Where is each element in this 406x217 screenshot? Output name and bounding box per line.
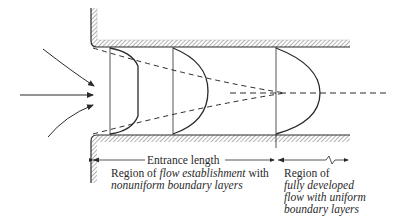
region-establishment-text-b: flow establishment bbox=[160, 167, 246, 179]
entrance-length-label: Entrance length bbox=[147, 155, 219, 167]
region-developed-text-b: uniform bbox=[329, 191, 365, 203]
region-developed-line1: Region of bbox=[284, 168, 330, 180]
region-establishment-line2: nonuniform boundary layers bbox=[111, 180, 243, 192]
region-developed-line3: flow with uniform bbox=[284, 192, 366, 204]
region-developed-line4: boundary layers bbox=[284, 204, 359, 216]
pipe-upper-wall bbox=[91, 8, 350, 47]
region-establishment-line1: Region of flow establishment with bbox=[111, 168, 269, 180]
velocity-profile-fully-developed bbox=[276, 47, 320, 148]
velocity-profile-developing bbox=[173, 47, 208, 135]
entrance-length-dimension bbox=[93, 156, 348, 164]
velocity-profile-flat bbox=[110, 47, 138, 135]
region-establishment-text-c: with bbox=[246, 167, 269, 179]
region-establishment-text-a: Region of bbox=[111, 167, 160, 179]
region-developed-line2: fully developed bbox=[284, 180, 354, 192]
region-developed-text-a: flow with bbox=[284, 191, 329, 203]
inflow-arrows bbox=[20, 49, 94, 137]
boundary-layer-dashed-lines bbox=[93, 48, 285, 134]
